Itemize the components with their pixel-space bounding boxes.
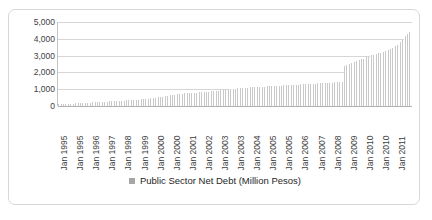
x-axis-tick-label: Jan 2003 xyxy=(220,135,229,170)
x-axis-tick-label: Jan 2005 xyxy=(269,135,278,170)
x-axis-tick-label: Jan 1997 xyxy=(108,135,117,170)
x-axis-tick-label: Jan 2010 xyxy=(365,135,374,170)
chart-plot-wrapper: 5,0004,0003,0002,0001,0000 Jan 1995Jan 1… xyxy=(9,10,421,206)
x-axis-tick-label: Jan 2008 xyxy=(333,135,342,170)
x-axis-tick-label: Jan 1998 xyxy=(124,135,133,170)
y-axis-tick-label: 0 xyxy=(13,102,55,111)
chart-legend: Public Sector Net Debt (Million Pesos) xyxy=(9,176,421,186)
y-axis-tick-label: 2,000 xyxy=(13,68,55,77)
x-axis-tick-label: Jan 2003 xyxy=(237,135,246,170)
bar xyxy=(411,30,413,106)
x-axis-tick-label: Jan 2009 xyxy=(349,135,358,170)
x-axis-tick-label: Jan 2002 xyxy=(204,135,213,170)
chart-card: 5,0004,0003,0002,0001,0000 Jan 1995Jan 1… xyxy=(8,9,420,205)
x-axis-tick-label: Jan 2005 xyxy=(285,135,294,170)
x-axis-tick-label: Jan 2001 xyxy=(188,135,197,170)
plot-area xyxy=(57,22,412,106)
x-axis-tick-label: Jan 2000 xyxy=(156,135,165,170)
x-axis-tick-label: Jan 2011 xyxy=(397,136,406,170)
legend-swatch-icon xyxy=(129,178,135,184)
x-axis-tick-labels: Jan 1995Jan 1995Jan 1996Jan 1997Jan 1998… xyxy=(57,108,411,170)
y-axis-tick-label: 4,000 xyxy=(13,35,55,44)
x-axis-tick-label: Jan 2004 xyxy=(253,135,262,170)
x-axis-tick-label: Jan 1995 xyxy=(60,135,69,170)
x-axis-tick-label: Jan 2007 xyxy=(317,135,326,170)
y-axis-tick-label: 3,000 xyxy=(13,51,55,60)
x-axis-tick-label: Jan 2000 xyxy=(172,135,181,170)
y-axis-tick-labels: 5,0004,0003,0002,0001,0000 xyxy=(13,22,55,106)
y-axis-tick-label: 5,000 xyxy=(13,18,55,27)
x-axis-tick-label: Jan 1996 xyxy=(92,135,101,170)
x-axis-tick-label: Jan 1999 xyxy=(140,135,149,170)
x-axis-tick-label: Jan 1995 xyxy=(76,135,85,170)
x-axis-tick-label: Jan 2010 xyxy=(381,135,390,170)
bar-series-public-sector-net-debt xyxy=(58,22,412,106)
legend-label: Public Sector Net Debt (Million Pesos) xyxy=(140,176,301,186)
x-axis-baseline xyxy=(58,106,412,107)
y-axis-tick-label: 1,000 xyxy=(13,85,55,94)
x-axis-tick-label: Jan 2006 xyxy=(301,135,310,170)
